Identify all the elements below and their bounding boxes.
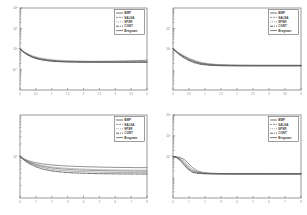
- plot-bottom-right: 012345678102101100BMPSALSASPSRCGNTBregma…: [153, 107, 307, 215]
- y-axis-tick-label: 101: [166, 26, 171, 30]
- plot-top-left: 00.511.522.533.5410210110010-1BMPSALSASP…: [0, 0, 153, 107]
- x-axis-tick-label: 4: [146, 92, 148, 96]
- x-axis-tick-label: 1: [188, 200, 190, 204]
- legend-label-salsa: SALSA: [278, 16, 289, 20]
- y-axis-tick-label: 100: [13, 47, 18, 51]
- legend-label-spsr: SPSR: [124, 20, 133, 24]
- y-axis-tick-label: 102: [13, 6, 18, 10]
- y-axis-tick-label: 100: [166, 154, 171, 158]
- legend-label-bregman: Bregman: [278, 29, 291, 33]
- series-line-bregman: [20, 49, 147, 62]
- legend-label-cgnt: CGNT: [278, 131, 287, 135]
- chart-svg: 012345678102101100BMPSALSASPSRCGNTBregma…: [153, 107, 307, 215]
- panel-bottom-right: 012345678102101100BMPSALSASPSRCGNTBregma…: [153, 107, 307, 215]
- panel-top-left: 00.511.522.533.5410210110010-1BMPSALSASP…: [0, 0, 153, 107]
- y-axis-tick-label: 100: [166, 47, 171, 51]
- legend-label-bregman: Bregman: [124, 29, 137, 33]
- x-axis-tick-label: 2.5: [98, 92, 102, 96]
- y-axis-tick-label: 102: [166, 113, 171, 117]
- legend-label-bmp: BMP: [124, 118, 131, 122]
- x-axis-tick-label: 2: [236, 92, 238, 96]
- series-line-bmp: [173, 157, 301, 174]
- x-axis-tick-label: 1: [204, 92, 206, 96]
- legend-label-salsa: SALSA: [124, 16, 135, 20]
- y-axis-tick-label: 10-1: [12, 67, 18, 71]
- series-line-bregman: [173, 49, 301, 66]
- x-axis-tick-label: 2: [51, 200, 53, 204]
- panel-bottom-left: 012345678100BMPSALSASPSRCGNTBregman: [0, 107, 153, 215]
- x-axis-tick-label: 2: [204, 200, 206, 204]
- x-axis-tick-label: 6: [268, 200, 270, 204]
- x-axis-tick-label: 4: [236, 200, 238, 204]
- x-axis-tick-label: 0: [172, 92, 174, 96]
- x-axis-tick-label: 0.5: [34, 92, 38, 96]
- x-axis-tick-label: 2.5: [251, 92, 255, 96]
- x-axis-tick-label: 0.5: [187, 92, 191, 96]
- x-axis-tick-label: 5: [252, 200, 254, 204]
- x-axis-tick-label: 2: [83, 92, 85, 96]
- x-axis-tick-label: 8: [146, 200, 148, 204]
- y-axis-tick-label: 101: [166, 134, 171, 138]
- x-axis-tick-label: 3: [115, 92, 117, 96]
- figure-panel-grid: 00.511.522.533.5410210110010-1BMPSALSASP…: [0, 0, 307, 215]
- x-axis-tick-label: 4: [300, 92, 302, 96]
- x-axis-tick-label: 3.5: [129, 92, 133, 96]
- legend-label-spsr: SPSR: [124, 127, 133, 131]
- x-axis-tick-label: 3: [268, 92, 270, 96]
- x-axis-tick-label: 6: [115, 200, 117, 204]
- legend-label-bregman: Bregman: [124, 136, 137, 140]
- series-line-cgnt: [173, 49, 301, 66]
- x-axis-tick-label: 7: [130, 200, 132, 204]
- panel-top-right: 00.511.522.533.54101100BMPSALSASPSRCGNTB…: [153, 0, 307, 107]
- chart-svg: 00.511.522.533.54101100BMPSALSASPSRCGNTB…: [153, 0, 307, 107]
- x-axis-tick-label: 0: [19, 92, 21, 96]
- series-line-salsa: [173, 49, 301, 66]
- plot-top-right: 00.511.522.533.54101100BMPSALSASPSRCGNTB…: [153, 0, 307, 107]
- series-line-spsr: [173, 49, 301, 65]
- legend-label-bmp: BMP: [124, 11, 131, 15]
- x-axis-tick-label: 1: [35, 200, 37, 204]
- legend-label-salsa: SALSA: [278, 123, 289, 127]
- x-axis-tick-label: 3: [220, 200, 222, 204]
- x-axis-tick-label: 1.5: [66, 92, 70, 96]
- legend-label-bmp: BMP: [278, 11, 285, 15]
- legend-label-salsa: SALSA: [124, 123, 135, 127]
- series-line-bmp: [20, 157, 147, 168]
- plot-bottom-left: 012345678100BMPSALSASPSRCGNTBregman: [0, 107, 153, 215]
- series-line-cgnt: [20, 49, 147, 62]
- y-axis-tick-label: 100: [13, 154, 18, 158]
- series-line-salsa: [20, 49, 147, 62]
- x-axis-tick-label: 8: [300, 200, 302, 204]
- chart-svg: 012345678100BMPSALSASPSRCGNTBregman: [0, 107, 153, 215]
- x-axis-tick-label: 7: [284, 200, 286, 204]
- series-line-bmp: [173, 49, 301, 65]
- x-axis-tick-label: 3.5: [283, 92, 287, 96]
- legend-label-spsr: SPSR: [278, 127, 287, 131]
- chart-svg: 00.511.522.533.5410210110010-1BMPSALSASP…: [0, 0, 153, 107]
- x-axis-tick-label: 0: [19, 200, 21, 204]
- x-axis-tick-label: 5: [99, 200, 101, 204]
- legend-label-cgnt: CGNT: [124, 131, 133, 135]
- x-axis-tick-label: 3: [67, 200, 69, 204]
- series-line-salsa: [173, 157, 301, 174]
- x-axis-tick-label: 4: [83, 200, 85, 204]
- legend-label-bregman: Bregman: [278, 136, 291, 140]
- x-axis-tick-label: 1.5: [219, 92, 223, 96]
- series-line-bregman: [20, 157, 147, 172]
- y-axis-tick-label: 101: [13, 26, 18, 30]
- x-axis-tick-label: 0: [172, 200, 174, 204]
- legend-label-bmp: BMP: [278, 118, 285, 122]
- legend-label-spsr: SPSR: [278, 20, 287, 24]
- legend-label-cgnt: CGNT: [124, 24, 133, 28]
- legend-label-cgnt: CGNT: [278, 24, 287, 28]
- x-axis-tick-label: 1: [51, 92, 53, 96]
